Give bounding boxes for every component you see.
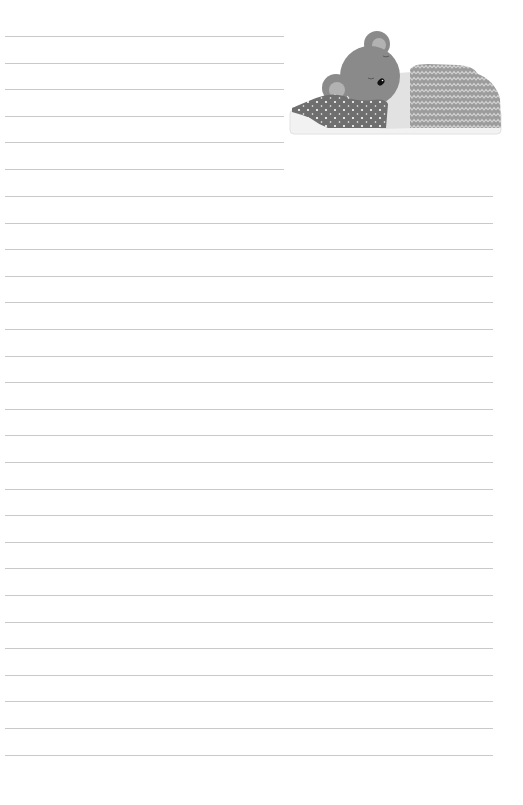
lined-paper-page	[0, 0, 523, 805]
long-ruled-line	[5, 568, 493, 569]
long-ruled-line	[5, 675, 493, 676]
long-ruled-line	[5, 276, 493, 277]
short-ruled-line	[5, 36, 284, 37]
short-ruled-line	[5, 169, 284, 170]
long-ruled-line	[5, 515, 493, 516]
bear-head	[340, 46, 400, 106]
long-ruled-line	[5, 542, 493, 543]
long-ruled-line	[5, 302, 493, 303]
long-ruled-line	[5, 382, 493, 383]
long-ruled-line	[5, 622, 493, 623]
short-ruled-line	[5, 89, 284, 90]
short-ruled-line	[5, 142, 284, 143]
short-ruled-line	[5, 116, 284, 117]
long-ruled-line	[5, 329, 493, 330]
sleeping-bear-illustration	[288, 28, 503, 138]
long-ruled-line	[5, 223, 493, 224]
long-ruled-line	[5, 409, 493, 410]
long-ruled-line	[5, 462, 493, 463]
long-ruled-line	[5, 249, 493, 250]
short-ruled-line	[5, 63, 284, 64]
blanket	[410, 64, 501, 128]
long-ruled-line	[5, 701, 493, 702]
long-ruled-line	[5, 648, 493, 649]
long-ruled-line	[5, 196, 493, 197]
long-ruled-line	[5, 595, 493, 596]
long-ruled-line	[5, 755, 493, 756]
long-ruled-line	[5, 435, 493, 436]
long-ruled-line	[5, 728, 493, 729]
long-ruled-line	[5, 356, 493, 357]
long-ruled-line	[5, 489, 493, 490]
